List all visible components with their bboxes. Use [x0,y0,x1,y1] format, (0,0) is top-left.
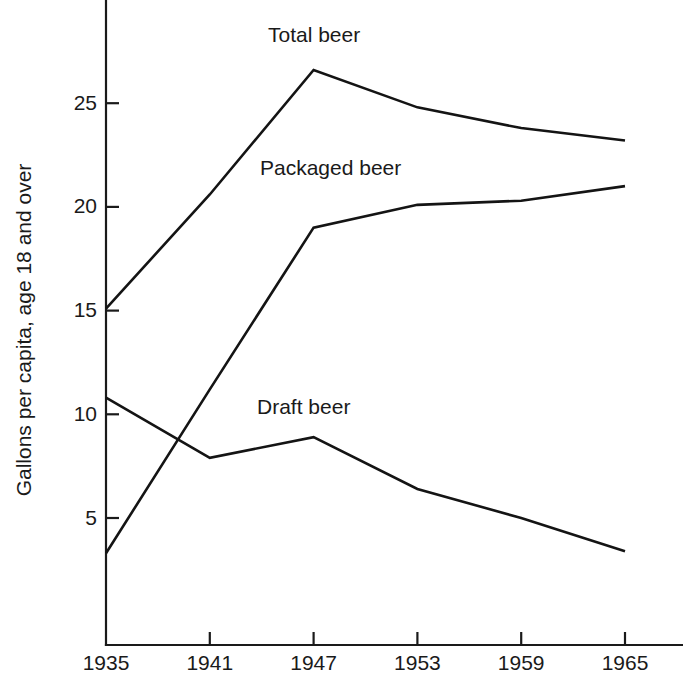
y-tick-label: 5 [85,506,97,529]
series-label-total-beer: Total beer [268,23,360,46]
series-label-packaged-beer: Packaged beer [260,156,401,179]
x-tick-label: 1959 [498,651,545,674]
series-line-total-beer [106,70,625,309]
series-line-draft-beer [106,398,625,551]
line-chart: Gallons per capita, age 18 and over 5101… [0,0,683,680]
x-tick-label: 1935 [83,651,130,674]
series-lines [106,70,625,553]
x-axis-ticks: 193519411947195319591965 [83,632,649,674]
x-tick-label: 1941 [186,651,233,674]
y-tick-label: 25 [74,91,97,114]
series-line-packaged-beer [106,186,625,553]
x-tick-label: 1965 [602,651,649,674]
chart-container: Gallons per capita, age 18 and over 5101… [0,0,683,680]
y-tick-label: 10 [74,402,97,425]
series-label-draft-beer: Draft beer [257,395,350,418]
y-tick-label: 20 [74,194,97,217]
series-annotations: Total beerPackaged beerDraft beer [257,23,401,418]
x-tick-label: 1953 [394,651,441,674]
y-tick-label: 15 [74,298,97,321]
x-tick-label: 1947 [290,651,337,674]
y-axis-ticks: 510152025 [74,91,119,529]
y-axis-title: Gallons per capita, age 18 and over [12,164,35,497]
